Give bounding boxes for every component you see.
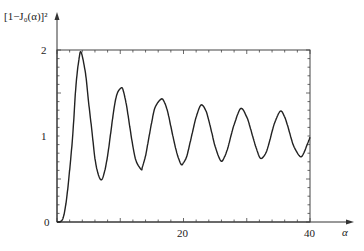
chart: [1−J₀(α)]² 2 1 0 20 40 α: [0, 0, 364, 251]
plot-frame: [57, 50, 310, 222]
data-curve: [57, 52, 310, 222]
y-axis-arrow-icon: [55, 12, 60, 20]
x-axis-arrow-icon: [346, 220, 354, 225]
x-tick-label-40: 40: [304, 227, 316, 239]
x-axis-label: α: [342, 226, 348, 238]
y-tick-label-2: 2: [41, 44, 47, 56]
tick-marks: [57, 50, 310, 222]
origin-label: 0: [44, 216, 50, 228]
x-tick-label-20: 20: [177, 227, 189, 239]
y-tick-label-1: 1: [41, 130, 47, 142]
y-axis-label: [1−J₀(α)]²: [4, 10, 48, 23]
